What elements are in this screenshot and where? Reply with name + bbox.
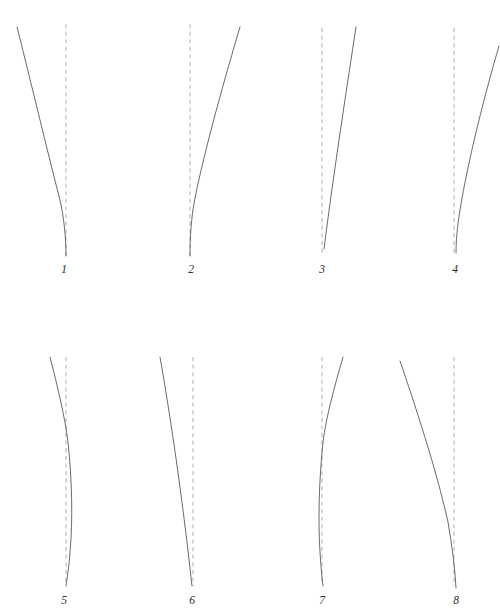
- figure-label-8: 8: [446, 595, 466, 607]
- curve-5: [50, 357, 72, 586]
- figure-label-1: 1: [54, 264, 74, 276]
- figure-plate: 12345678: [0, 0, 500, 616]
- curve-1: [17, 27, 66, 256]
- curve-7: [319, 357, 343, 586]
- curve-2: [190, 27, 240, 256]
- curve-3: [324, 27, 356, 249]
- dashed-axes-group: [66, 24, 454, 586]
- figure-label-4: 4: [445, 264, 465, 276]
- plate-canvas: [0, 0, 500, 616]
- figure-label-3: 3: [312, 264, 332, 276]
- curve-6: [160, 357, 192, 586]
- curve-8: [400, 361, 456, 588]
- figure-label-5: 5: [54, 595, 74, 607]
- figure-label-2: 2: [181, 264, 201, 276]
- curve-4: [456, 46, 499, 253]
- curves-group: [17, 27, 499, 588]
- figure-label-7: 7: [312, 595, 332, 607]
- figure-label-6: 6: [182, 595, 202, 607]
